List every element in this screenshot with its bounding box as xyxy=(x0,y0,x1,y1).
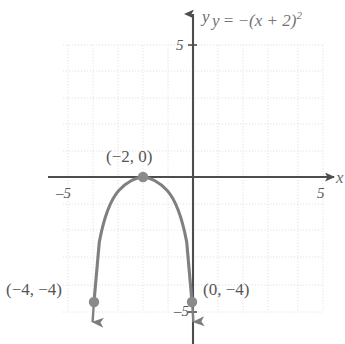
x-tick-label-5: 5 xyxy=(317,186,325,201)
point-vertex xyxy=(138,172,148,182)
right-endpoint-label: (0, −4) xyxy=(203,281,249,298)
y-tick-label-5: 5 xyxy=(176,38,184,53)
equation-exponent: 2 xyxy=(296,9,302,21)
equation-equals: = xyxy=(220,11,238,30)
vertex-point-label: (−2, 0) xyxy=(106,148,152,165)
point-left-endpoint xyxy=(89,297,99,307)
equation-lhs: y xyxy=(212,11,220,30)
equation-rhs: −(x + 2) xyxy=(238,11,297,30)
x-tick-label-neg5: –5 xyxy=(56,186,71,201)
y-axis-label: y xyxy=(202,8,210,25)
y-tick-label-neg5: –5 xyxy=(174,304,189,319)
left-endpoint-label: (−4, −4) xyxy=(6,281,62,298)
x-axis-label: x xyxy=(336,169,344,186)
parabola-figure: y = −(x + 2)2 y x 5 –5 –5 5 (−2, 0) (−4,… xyxy=(0,0,345,344)
equation-label: y = −(x + 2)2 xyxy=(212,10,302,29)
